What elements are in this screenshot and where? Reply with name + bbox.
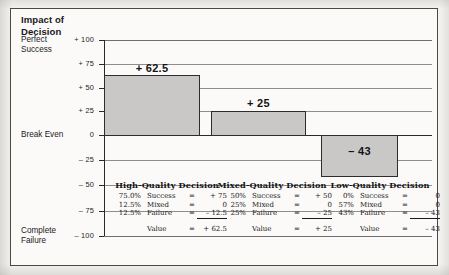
table-total-row: Value = – 43: [320, 225, 440, 234]
bar-label-high-quality: + 62.5: [104, 62, 200, 74]
y-tick-neg50: [99, 185, 104, 186]
cell-equals: =: [187, 209, 197, 219]
y-tick-neg100: [99, 236, 104, 237]
cell-total-label: Value: [360, 225, 400, 234]
cell-equals: =: [292, 201, 302, 210]
table-high-quality-decision: High-Quality Decision 75.0% Success = + …: [107, 180, 227, 233]
axis-anchor-break-even: Break Even: [21, 130, 81, 140]
cell-probability: 25%: [212, 209, 252, 219]
cell-outcome: Success: [252, 192, 292, 201]
anchor-perfect-success-line1: Perfect: [21, 35, 81, 45]
table-row: 25% Mixed = 0: [212, 201, 332, 210]
cell-probability: 12.5%: [107, 209, 147, 219]
page-title: Impact of Decision: [21, 14, 91, 37]
cell-outcome: Failure: [360, 209, 400, 219]
table-total-row: Value = + 62.5: [107, 225, 227, 234]
cell-equals: =: [187, 225, 197, 234]
cell-outcome: Success: [360, 192, 400, 201]
anchor-complete-failure-line1: Complete: [21, 226, 81, 236]
cell-outcome: Mixed: [252, 201, 292, 210]
bar-label-low-quality: – 43: [321, 145, 398, 157]
cell-equals: =: [400, 209, 410, 219]
cell-payoff: – 43: [410, 209, 440, 219]
y-tick-label-25: + 25: [60, 106, 94, 115]
y-tick-100: [99, 40, 104, 41]
cell-probability: 57%: [320, 201, 360, 210]
cell-total-label: Value: [147, 225, 187, 234]
y-tick-label-75: + 75: [60, 59, 94, 68]
cell-equals: =: [292, 209, 302, 219]
cell-equals: =: [400, 201, 410, 210]
table-row: 75.0% Success = + 75: [107, 192, 227, 201]
axis-anchor-perfect-success: Perfect Success: [21, 35, 81, 55]
cell-probability: 25%: [212, 201, 252, 210]
table-row: 50% Success = + 50: [212, 192, 332, 201]
table-row: 57% Mixed = 0: [320, 201, 440, 210]
cell-equals: =: [400, 225, 410, 234]
cell-payoff: 0: [410, 192, 440, 201]
cell-equals: =: [400, 192, 410, 201]
bar-label-mixed-quality: + 25: [211, 97, 306, 109]
table-row: 25% Failure = – 25: [212, 209, 332, 219]
anchor-perfect-success-line2: Success: [21, 45, 81, 55]
cell-spacer: [320, 225, 360, 234]
cell-total-value: – 43: [410, 225, 440, 234]
y-tick-neg25: [99, 160, 104, 161]
cell-equals: =: [187, 201, 197, 210]
table-low-quality-decision: Low-Quality Decision 0% Success = 0 57% …: [320, 180, 440, 233]
table-header-low-quality: Low-Quality Decision: [320, 180, 440, 190]
table-header-mixed-quality: Mixed-Quality Decision: [212, 180, 332, 190]
cell-equals: =: [292, 192, 302, 201]
table-row: 12.5% Failure = – 12.5: [107, 209, 227, 219]
anchor-complete-failure-line2: Failure: [21, 236, 81, 246]
cell-probability: 75.0%: [107, 192, 147, 201]
chart-figure: Impact of Decision + 100 + 75 + 50 + 25 …: [0, 0, 449, 275]
gridline-100: [104, 40, 432, 41]
cell-outcome: Failure: [147, 209, 187, 219]
cell-outcome: Success: [147, 192, 187, 201]
cell-outcome: Failure: [252, 209, 292, 219]
table-mixed-quality-decision: Mixed-Quality Decision 50% Success = + 5…: [212, 180, 332, 233]
cell-probability: 0%: [320, 192, 360, 201]
cell-probability: 50%: [212, 192, 252, 201]
y-tick-label-neg50: – 50: [60, 180, 94, 189]
table-row: 0% Success = 0: [320, 192, 440, 201]
cell-total-label: Value: [252, 225, 292, 234]
y-tick-label-neg25: – 25: [60, 155, 94, 164]
cell-equals: =: [187, 192, 197, 201]
cell-probability: 43%: [320, 209, 360, 219]
cell-probability: 12.5%: [107, 201, 147, 210]
table-row: 43% Failure = – 43: [320, 209, 440, 219]
table-row: 12.5% Mixed = 0: [107, 201, 227, 210]
y-tick-label-neg75: – 75: [60, 206, 94, 215]
cell-equals: =: [292, 225, 302, 234]
gridline-neg100: [104, 236, 432, 237]
table-total-row: Value = + 25: [212, 225, 332, 234]
axis-anchor-complete-failure: Complete Failure: [21, 226, 81, 246]
table-header-high-quality: High-Quality Decision: [107, 180, 227, 190]
bar-mixed-quality: [211, 111, 306, 136]
cell-outcome: Mixed: [360, 201, 400, 210]
cell-outcome: Mixed: [147, 201, 187, 210]
y-tick-label-50: + 50: [60, 83, 94, 92]
y-tick-neg75: [99, 211, 104, 212]
bar-high-quality: [104, 75, 200, 136]
cell-payoff: 0: [410, 201, 440, 210]
cell-spacer: [212, 225, 252, 234]
cell-spacer: [107, 225, 147, 234]
